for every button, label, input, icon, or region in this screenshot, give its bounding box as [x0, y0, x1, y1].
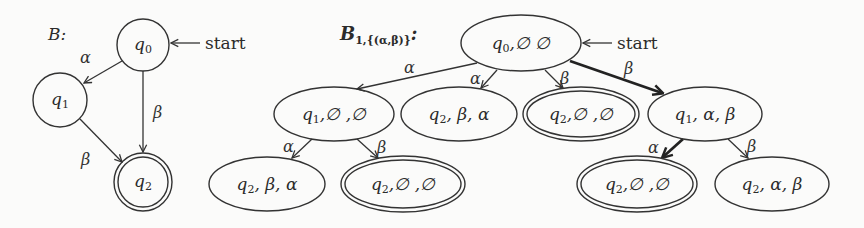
- svg-text:β: β: [80, 150, 90, 169]
- start-label-b1: start: [617, 33, 658, 53]
- automaton-b: B: q0 q1 q2 start α β: [33, 19, 246, 211]
- edge-root-n4-highlighted: β: [570, 59, 662, 93]
- svg-text:α: α: [283, 137, 294, 156]
- svg-text:q2,∅ ,∅: q2,∅ ,∅: [371, 174, 436, 196]
- edge-q0-q1: α: [80, 48, 122, 83]
- state-n6-accepting: q2,∅ ,∅: [341, 156, 465, 212]
- edge-n4-n7-highlighted: α: [648, 138, 683, 157]
- svg-text:q1, α, β: q1, α, β: [675, 104, 736, 126]
- svg-text:β: β: [623, 59, 633, 78]
- svg-text:q2: q2: [134, 171, 152, 193]
- state-n2: q2, β, α: [401, 87, 517, 141]
- state-q2-accepting: q2: [114, 153, 172, 211]
- automata-figure: B: q0 q1 q2 start α β: [0, 0, 864, 228]
- edge-n1-n5: α: [283, 137, 312, 158]
- svg-text:q0: q0: [134, 34, 152, 56]
- svg-text:α: α: [404, 58, 415, 77]
- state-root: q0,∅ ∅: [461, 15, 581, 71]
- svg-text:q1,∅ ,∅: q1,∅ ,∅: [302, 104, 367, 126]
- svg-text:β: β: [152, 103, 162, 122]
- automaton-b1-title: B1,{(α,β)}:: [339, 23, 418, 47]
- state-n7-accepting: q2,∅ ,∅: [577, 156, 697, 212]
- svg-text:q2, β, α: q2, β, α: [237, 174, 298, 196]
- svg-text:q2, α, β: q2, α, β: [742, 174, 803, 196]
- svg-text:α: α: [648, 138, 659, 157]
- start-arrow: start: [171, 33, 246, 53]
- edge-root-n3: β: [545, 69, 569, 88]
- state-q0: q0: [117, 19, 169, 71]
- edge-q1-q2: β: [80, 119, 122, 169]
- state-n3-accepting: q2,∅ ,∅: [523, 87, 639, 141]
- svg-text:q2,∅ ,∅: q2,∅ ,∅: [549, 104, 614, 126]
- svg-text:β: β: [559, 69, 569, 88]
- state-n5: q2, β, α: [209, 157, 325, 211]
- state-n4: q1, α, β: [648, 87, 762, 141]
- state-n8: q2, α, β: [715, 157, 829, 211]
- start-label: start: [205, 33, 246, 53]
- svg-text:α: α: [80, 48, 91, 67]
- automaton-b-title: B:: [47, 24, 66, 44]
- svg-text:q2, β, α: q2, β, α: [429, 104, 490, 126]
- edge-root-n1: α: [357, 58, 477, 89]
- svg-text:α: α: [470, 69, 481, 88]
- automaton-b1: B1,{(α,β)}: start α α β β α β: [209, 15, 829, 212]
- svg-text:q0,∅ ∅: q0,∅ ∅: [492, 33, 552, 55]
- svg-text:q2,∅ ,∅: q2,∅ ,∅: [605, 174, 670, 196]
- state-q1: q1: [33, 73, 87, 127]
- svg-text:β: β: [376, 138, 386, 157]
- svg-text:β: β: [746, 137, 756, 156]
- edge-root-n2: α: [470, 69, 497, 88]
- edge-n4-n8: β: [728, 137, 756, 158]
- edge-n1-n6: β: [357, 138, 386, 158]
- svg-text:q1: q1: [51, 89, 69, 111]
- state-n1: q1,∅ ,∅: [274, 87, 394, 141]
- edge-q0-q2: β: [143, 71, 162, 152]
- start-arrow-b1: start: [583, 33, 658, 53]
